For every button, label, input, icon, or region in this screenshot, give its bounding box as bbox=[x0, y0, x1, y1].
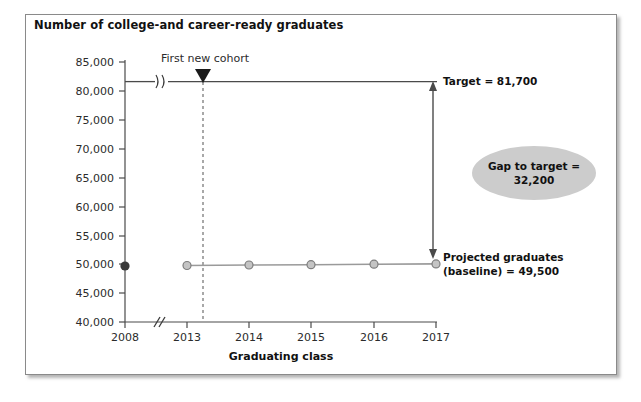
x-tick-label: 2016 bbox=[360, 331, 388, 344]
x-tick-label: 2014 bbox=[235, 331, 263, 344]
gap-to-target-line2: 32,200 bbox=[514, 174, 555, 186]
x-axis-tick-labels: 2008 2013 2014 2015 2016 2017 bbox=[111, 331, 450, 344]
data-point-marker bbox=[183, 262, 191, 270]
baseline-actual-marker bbox=[120, 261, 129, 270]
data-point-marker bbox=[432, 260, 440, 268]
x-axis-title: Graduating class bbox=[229, 350, 334, 363]
x-tick-label: 2013 bbox=[173, 331, 201, 344]
first-new-cohort-label: First new cohort bbox=[161, 52, 250, 65]
x-tick-label: 2015 bbox=[297, 331, 325, 344]
y-tick-label: 65,000 bbox=[76, 172, 115, 185]
y-tick-label: 60,000 bbox=[76, 201, 115, 214]
y-tick-label: 55,000 bbox=[76, 230, 115, 243]
gap-to-target-bubble bbox=[472, 146, 596, 200]
y-tick-label: 75,000 bbox=[76, 114, 115, 127]
y-tick-label: 70,000 bbox=[76, 143, 115, 156]
y-tick-label: 45,000 bbox=[76, 287, 115, 300]
y-axis-tick-labels: 85,000 80,000 75,000 70,000 65,000 60,00… bbox=[76, 56, 115, 329]
x-tick-label: 2008 bbox=[111, 331, 139, 344]
data-point-marker bbox=[307, 261, 315, 269]
data-point-marker bbox=[245, 261, 253, 269]
gap-to-target-line1: Gap to target = bbox=[488, 160, 580, 172]
y-tick-label: 85,000 bbox=[76, 56, 115, 69]
data-point-marker bbox=[370, 260, 378, 268]
chart-canvas: 85,000 80,000 75,000 70,000 65,000 60,00… bbox=[0, 0, 641, 402]
projected-graduates-label-line1: Projected graduates bbox=[443, 251, 564, 263]
projected-graduates-label-line2: (baseline) = 49,500 bbox=[443, 265, 559, 277]
y-tick-label: 50,000 bbox=[76, 258, 115, 271]
target-label: Target = 81,700 bbox=[443, 75, 537, 87]
gap-to-target-arrow bbox=[429, 81, 437, 259]
target-reference-line bbox=[125, 75, 437, 88]
x-tick-label: 2017 bbox=[422, 331, 450, 344]
y-tick-label: 40,000 bbox=[76, 316, 115, 329]
first-new-cohort-marker bbox=[195, 69, 211, 322]
projected-graduates-series bbox=[183, 260, 440, 270]
y-tick-label: 80,000 bbox=[76, 85, 115, 98]
y-axis-ticks bbox=[119, 62, 125, 322]
x-axis-ticks bbox=[125, 322, 436, 328]
